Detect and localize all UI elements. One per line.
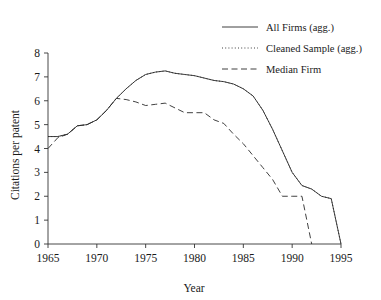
series-path-1 [48, 71, 341, 244]
y-axis-ticks: 012345678 [34, 47, 48, 250]
x-tick-label: 1985 [232, 252, 255, 264]
chart-legend: All Firms (agg.)Cleaned Sample (agg.)Med… [222, 22, 362, 75]
series-path-3 [48, 98, 312, 244]
x-tick-label: 1965 [37, 252, 60, 264]
x-tick-label: 1995 [330, 252, 353, 264]
y-tick-label: 8 [34, 47, 40, 59]
y-tick-label: 3 [34, 166, 40, 178]
legend-label-3: Median Firm [266, 64, 321, 75]
chart-figure: 012345678 1965197019751980198519901995 Y… [0, 0, 381, 300]
y-tick-label: 5 [34, 119, 40, 131]
x-tick-label: 1980 [183, 252, 206, 264]
data-series-group [48, 71, 341, 244]
y-tick-label: 4 [34, 143, 40, 155]
x-tick-label: 1970 [85, 252, 108, 264]
y-tick-label: 2 [34, 190, 40, 202]
y-axis-title: Citations per patent [9, 109, 22, 200]
legend-label-2: Cleaned Sample (agg.) [266, 43, 362, 55]
plot-axes [48, 53, 341, 244]
y-tick-label: 7 [34, 71, 40, 83]
series-path-2 [48, 71, 341, 244]
x-axis-title: Year [183, 282, 204, 294]
legend-label-1: All Firms (agg.) [266, 22, 334, 34]
y-tick-label: 1 [34, 214, 40, 226]
y-tick-label: 6 [34, 95, 40, 107]
x-tick-label: 1975 [134, 252, 157, 264]
x-tick-label: 1990 [281, 252, 304, 264]
line-chart: 012345678 1965197019751980198519901995 Y… [0, 0, 381, 300]
y-tick-label: 0 [34, 238, 40, 250]
x-axis-ticks: 1965197019751980198519901995 [37, 244, 353, 264]
